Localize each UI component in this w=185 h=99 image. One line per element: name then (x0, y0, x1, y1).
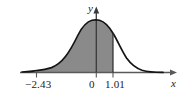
y-axis-label: y (88, 3, 93, 14)
x-tick-label-upper-bound: 1.01 (105, 79, 125, 90)
x-axis-label: x (171, 78, 176, 89)
y-axis-arrowhead-icon (93, 7, 99, 14)
x-tick-label-origin: 0 (89, 79, 95, 90)
shaded-area-region (37, 20, 114, 73)
x-axis-arrowhead-icon (170, 70, 177, 76)
x-tick-label-lower-bound: −2.43 (25, 79, 51, 90)
normal-curve-figure: y x −2.43 0 1.01 (0, 0, 185, 99)
